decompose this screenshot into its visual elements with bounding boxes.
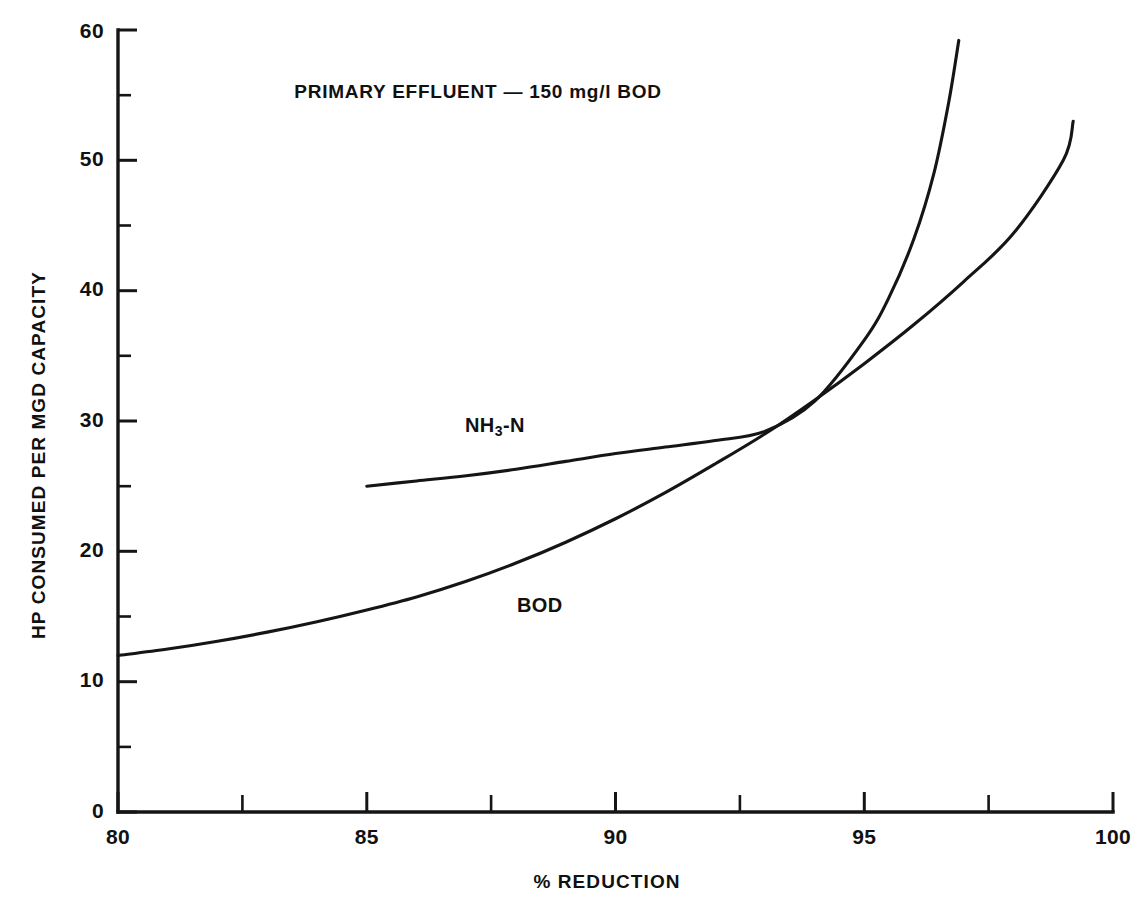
series-line-bod — [118, 121, 1073, 655]
x-tick-label-95: 95 — [852, 825, 876, 848]
y-tick-label-30: 30 — [80, 408, 104, 431]
x-axis-tick-labels: 80 85 90 95 100 — [106, 825, 1131, 848]
x-tick-label-100: 100 — [1095, 825, 1131, 848]
series-line-nh3-n — [367, 40, 959, 486]
y-axis-title: HP CONSUMED PER MGD CAPACITY — [28, 271, 49, 639]
x-tick-label-80: 80 — [106, 825, 130, 848]
x-axis-title: % REDUCTION — [533, 871, 680, 892]
y-tick-label-60: 60 — [80, 19, 104, 42]
chart-figure: PRIMARY EFFLUENT — 150 mg/l BOD 0 10 — [0, 0, 1144, 912]
line-chart-canvas: PRIMARY EFFLUENT — 150 mg/l BOD 0 10 — [0, 0, 1144, 912]
series-label-bod: BOD — [517, 594, 563, 616]
y-tick-label-50: 50 — [80, 147, 104, 170]
x-tick-label-85: 85 — [355, 825, 379, 848]
y-tick-label-0: 0 — [92, 799, 104, 822]
y-tick-label-20: 20 — [80, 538, 104, 561]
x-axis-major-ticks — [118, 792, 1113, 812]
chart-title: PRIMARY EFFLUENT — 150 mg/l BOD — [294, 81, 661, 102]
y-tick-label-10: 10 — [80, 668, 104, 691]
y-axis-tick-labels: 0 10 20 30 40 50 60 — [80, 19, 104, 822]
series-label-nh3-n: NH3-N — [465, 414, 525, 439]
y-axis-major-ticks — [118, 30, 137, 812]
y-tick-label-40: 40 — [80, 277, 104, 300]
x-tick-label-90: 90 — [603, 825, 627, 848]
